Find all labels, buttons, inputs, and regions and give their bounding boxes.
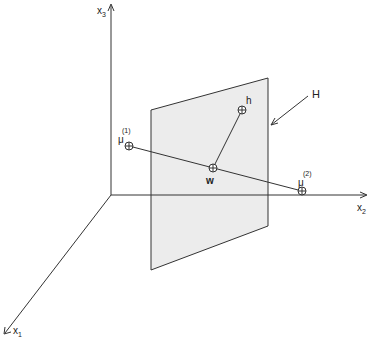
x1-label-subscript: 1 (18, 331, 22, 338)
mu2-point-icon (298, 187, 306, 195)
mu1-superscript: (1) (122, 127, 131, 134)
x3-label-subscript: 3 (102, 11, 106, 18)
h-label: h (246, 96, 252, 106)
x2-axis-label: x2 (357, 203, 366, 213)
mu2-superscript: (2) (303, 170, 312, 177)
h-pointer-arrow-icon (271, 118, 278, 125)
h-pointer-line (271, 96, 308, 125)
w-label: w (206, 176, 214, 186)
x1-axis-label: x1 (13, 326, 22, 336)
hyperplane-label: H (312, 89, 320, 100)
diagram-canvas (0, 0, 371, 342)
x1-axis (5, 195, 111, 333)
mu1-label: μ (118, 135, 124, 145)
w-point-icon (209, 164, 217, 172)
mu2-label: μ (298, 178, 304, 188)
x2-label-subscript: 2 (362, 208, 366, 215)
hyperplane-h (151, 78, 268, 270)
x3-axis-label: x3 (97, 6, 106, 16)
h-point-icon (238, 106, 246, 114)
mu1-point-icon (125, 142, 133, 150)
